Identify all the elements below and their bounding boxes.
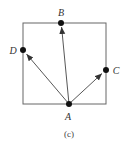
arrow-a-to-d bbox=[27, 54, 70, 104]
point-a bbox=[66, 101, 72, 107]
label-a: A bbox=[64, 111, 72, 122]
point-c bbox=[103, 67, 109, 73]
figure-caption: (c) bbox=[64, 129, 74, 139]
point-b bbox=[58, 20, 64, 26]
arrow-a-to-c bbox=[69, 74, 102, 105]
label-b: B bbox=[58, 7, 64, 18]
square-boundary bbox=[23, 23, 106, 104]
label-d: D bbox=[8, 45, 17, 56]
diagram-canvas: B D C A (c) bbox=[0, 0, 124, 145]
label-c: C bbox=[113, 65, 120, 76]
point-d bbox=[20, 47, 26, 53]
arrow-a-to-b bbox=[62, 27, 69, 104]
